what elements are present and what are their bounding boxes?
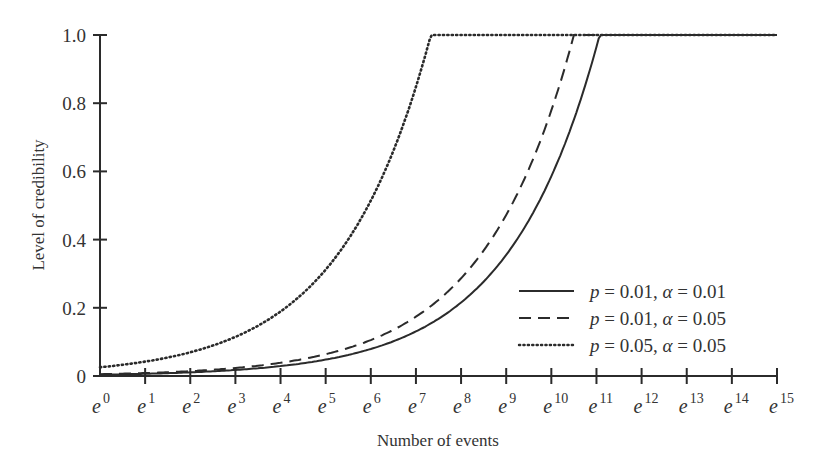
x-tick-exponent: 6 [374,391,381,406]
x-tick-label: e [543,395,552,417]
x-tick-label: e [588,395,597,417]
x-tick-label: e [318,395,327,417]
x-tick-exponent: 2 [193,391,200,406]
legend-label: p = 0.01, α = 0.05 [588,308,726,329]
x-tick-exponent: 8 [464,391,471,406]
x-tick-label: e [724,395,733,417]
y-tick-label: 1.0 [62,25,86,46]
legend-p-val: = 0.05, [604,335,657,356]
y-tick-label: 0.6 [62,161,86,182]
x-tick-label: e [769,395,778,417]
legend-label: p = 0.05, α = 0.05 [588,335,726,356]
legend-p-sym: p [588,308,604,329]
x-axis-title: Number of events [377,431,499,450]
x-tick-exponent: 13 [690,391,704,406]
x-tick-label: e [363,395,372,417]
legend: p = 0.01, α = 0.01p = 0.01, α = 0.05p = … [519,281,726,356]
x-tick-label: e [453,395,462,417]
x-tick-exponent: 3 [238,391,245,406]
legend-p-sym: p [588,335,604,356]
x-tick-exponent: 9 [509,391,516,406]
x-tick-label: e [408,395,417,417]
x-tick-exponent: 0 [103,391,110,406]
x-tick-exponent: 14 [735,391,749,406]
x-tick-exponent: 4 [284,391,291,406]
x-tick-label: e [273,395,282,417]
x-tick-exponent: 12 [645,391,659,406]
x-tick-label: e [182,395,191,417]
x-tick-exponent: 15 [780,391,794,406]
x-tick-exponent: 7 [419,391,426,406]
x-tick-label: e [679,395,688,417]
legend-p-val: = 0.01, [604,281,657,302]
legend-a-sym: α [658,281,677,302]
x-tick-label: e [634,395,643,417]
credibility-chart: 00.20.40.60.81.0 e0e1e2e3e4e5e6e7e8e9e10… [0,0,819,471]
legend-p-val: = 0.01, [604,308,657,329]
x-tick-label: e [92,395,101,417]
x-tick-exponent: 10 [554,391,568,406]
y-axis-title: Level of credibility [29,139,48,271]
legend-a-val: = 0.05 [677,335,726,356]
y-tick-label: 0.8 [62,93,86,114]
y-tick-label: 0 [77,366,87,387]
x-tick-label: e [227,395,236,417]
x-tick-label: e [498,395,507,417]
legend-a-val: = 0.05 [677,308,726,329]
y-tick-label: 0.4 [62,230,86,251]
legend-a-val: = 0.01 [677,281,726,302]
x-tick-exponent: 5 [329,391,336,406]
legend-p-sym: p [588,281,604,302]
legend-label: p = 0.01, α = 0.01 [588,281,726,302]
legend-a-sym: α [658,335,677,356]
legend-a-sym: α [658,308,677,329]
x-tick-exponent: 1 [148,391,155,406]
y-tick-label: 0.2 [62,298,86,319]
x-tick-exponent: 11 [599,391,612,406]
x-tick-label: e [137,395,146,417]
